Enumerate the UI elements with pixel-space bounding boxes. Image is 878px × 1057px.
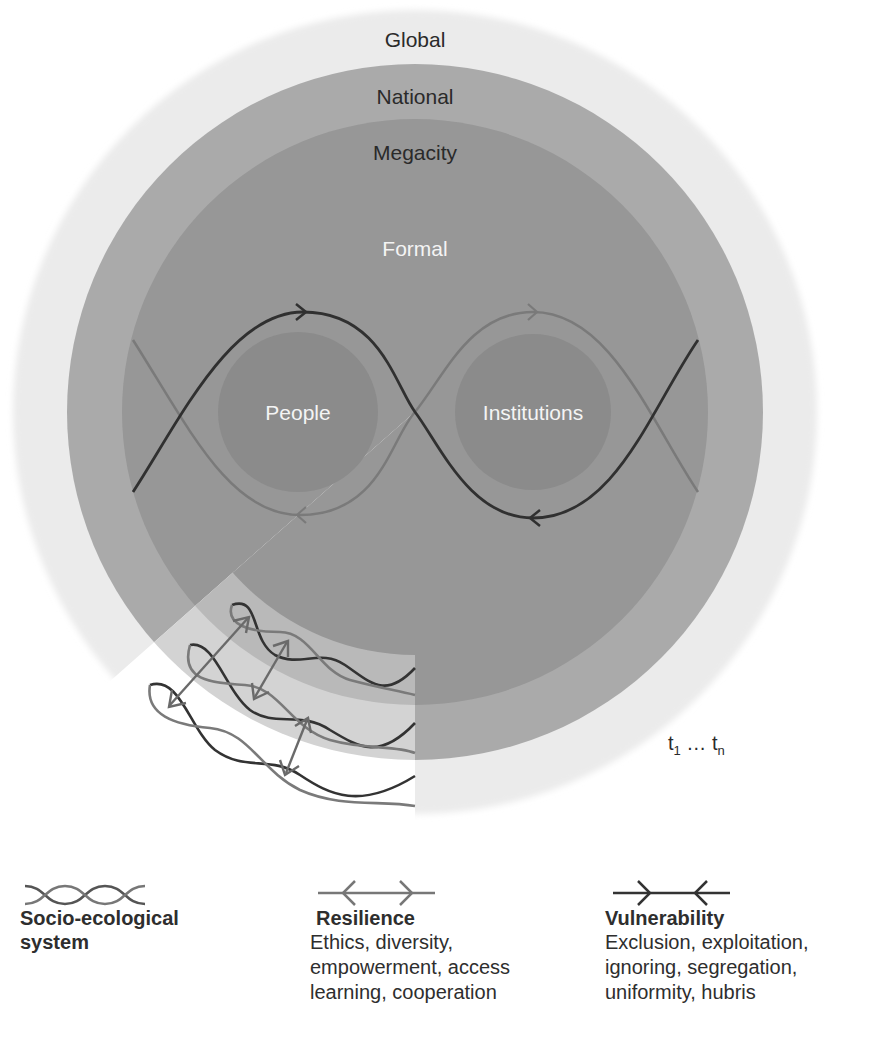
legend-resilience: Resilience Ethics, diversity, empowermen… [310, 876, 510, 1005]
inward-arrows-icon [605, 876, 735, 906]
legend-resilience-title: Resilience [316, 906, 510, 930]
legend-resilience-line-2: empowerment, access [310, 955, 510, 980]
label-global: Global [385, 28, 446, 51]
label-time-range: t1 … tn [668, 732, 725, 758]
legend-vulnerability-title: Vulnerability [605, 906, 808, 930]
outward-arrows-icon [310, 876, 440, 906]
legend-resilience-line-1: Ethics, diversity, [310, 930, 510, 955]
label-institutions: Institutions [483, 401, 583, 424]
label-megacity: Megacity [373, 141, 458, 164]
legend-ses-title-2: system [20, 930, 179, 954]
label-national: National [376, 85, 453, 108]
label-people: People [265, 401, 330, 424]
legend-ses-title-1: Socio-ecological [20, 906, 179, 930]
megacity-resilience-diagram: Global National Megacity Formal People I… [0, 0, 878, 870]
intertwined-waves-icon [20, 876, 150, 906]
legend-vulnerability-line-2: ignoring, segregation, [605, 955, 808, 980]
legend-vulnerability: Vulnerability Exclusion, exploitation, i… [605, 876, 808, 1005]
legend-socio-ecological: Socio-ecological system [20, 876, 179, 954]
legend-resilience-line-3: learning, cooperation [310, 980, 510, 1005]
legend-vulnerability-line-3: uniformity, hubris [605, 980, 808, 1005]
label-formal: Formal [382, 237, 447, 260]
legend-vulnerability-line-1: Exclusion, exploitation, [605, 930, 808, 955]
